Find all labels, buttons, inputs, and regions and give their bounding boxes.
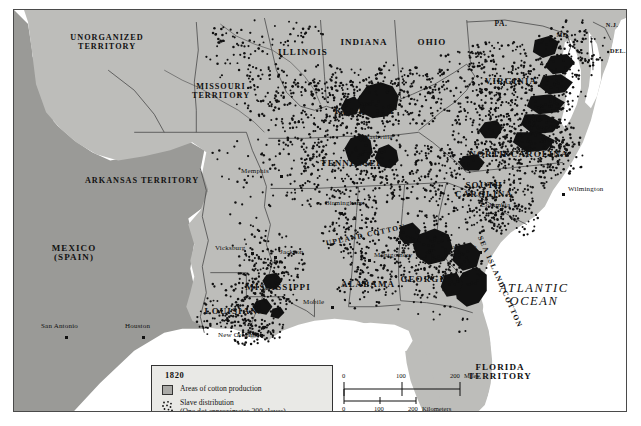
legend-slave-label: Slave distribution (One dot approximates…	[180, 398, 286, 412]
scale-miles-tick-0: 0	[342, 372, 345, 379]
scale-km-tick-100: 100	[374, 405, 384, 412]
city-marker-mobile	[331, 306, 334, 309]
city-marker-memphis	[280, 175, 283, 178]
city-marker-vicksburg	[251, 252, 254, 255]
legend-slave-dots-icon	[161, 400, 174, 412]
map-legend: 1820 Areas of cotton production Slave di…	[151, 365, 333, 412]
scale-miles-tick-200: 200	[450, 372, 460, 379]
city-marker-jackson	[274, 256, 277, 259]
city-marker-atlanta	[398, 241, 401, 244]
city-marker-nashville	[358, 142, 361, 145]
scale-km-tick-200: 200	[408, 405, 418, 412]
city-marker-montgomery	[368, 259, 371, 262]
scale-km-unit: Kilometers	[422, 405, 451, 412]
city-marker-wilmington	[562, 193, 565, 196]
city-marker-columbia	[500, 208, 503, 211]
city-marker-savannah	[479, 251, 482, 254]
scale-km-tick-0: 0	[342, 405, 345, 412]
map-canvas	[14, 10, 626, 411]
map-geometry	[14, 10, 626, 411]
scale-miles-tick-100: 100	[396, 372, 406, 379]
legend-cotton-label: Areas of cotton production	[180, 384, 262, 393]
city-marker-new-orleans	[260, 334, 263, 337]
city-marker-houston	[142, 336, 145, 339]
map-frame: UNORGANIZED TERRITORYMISSOURI TERRITORYA…	[13, 9, 627, 412]
map-scale-bar: 0 100 200 Miles 0 100 200 Kilometers	[340, 370, 500, 412]
legend-cotton-swatch	[162, 385, 173, 395]
city-marker-san-antonio	[65, 336, 68, 339]
map-figure: UNORGANIZED TERRITORYMISSOURI TERRITORYA…	[0, 0, 641, 426]
city-marker-birmingham	[340, 212, 343, 215]
legend-slave-line2: (One dot approximates 200 slaves)	[180, 407, 286, 412]
legend-year: 1820	[165, 370, 184, 380]
scale-miles-unit: Miles	[464, 372, 479, 379]
legend-slave-line1: Slave distribution	[180, 398, 286, 407]
